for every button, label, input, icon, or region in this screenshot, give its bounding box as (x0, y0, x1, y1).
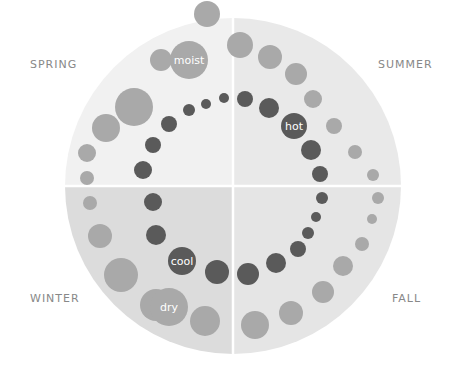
outer-dot (88, 224, 112, 248)
inner-dot (237, 91, 253, 107)
inner-dot (311, 212, 321, 222)
outer-dot (333, 256, 353, 276)
inner-dot (312, 166, 328, 182)
outer-dot (285, 63, 307, 85)
outer-dot (78, 144, 96, 162)
outer-dot (279, 301, 303, 325)
outer-dot (367, 214, 377, 224)
quality-label-cool: cool (171, 255, 194, 268)
outer-dot (104, 258, 138, 292)
outer-dot (304, 90, 322, 108)
inner-dot (266, 253, 286, 273)
label-summer: SUMMER (378, 58, 433, 71)
quality-label-hot: hot (285, 120, 304, 133)
outer-dot (80, 171, 94, 185)
inner-dot (146, 225, 166, 245)
inner-dot (237, 263, 259, 285)
inner-dot (201, 99, 211, 109)
seasons-diagram: moisthotcooldry (0, 0, 458, 374)
inner-dot (145, 137, 161, 153)
label-spring: SPRING (30, 58, 77, 71)
label-winter: WINTER (30, 292, 80, 305)
outer-dot (150, 49, 172, 71)
outer-dot (348, 145, 362, 159)
inner-dot (219, 93, 229, 103)
outer-dot (227, 32, 253, 58)
outer-dot (372, 192, 384, 204)
outer-dot (115, 88, 153, 126)
outer-dot (367, 169, 379, 181)
inner-dot (183, 104, 195, 116)
outer-dot (190, 306, 220, 336)
inner-dot (161, 116, 177, 132)
outer-dot (355, 237, 369, 251)
inner-dot (259, 98, 279, 118)
outer-dot (241, 311, 269, 339)
outer-dot (258, 45, 282, 69)
inner-dot (316, 192, 328, 204)
quality-label-dry: dry (160, 301, 179, 314)
inner-dot (144, 193, 162, 211)
outer-dot (194, 1, 220, 27)
inner-dot (205, 260, 229, 284)
inner-dot (302, 227, 314, 239)
outer-dot (92, 114, 120, 142)
inner-dot (290, 241, 306, 257)
quality-label-moist: moist (174, 54, 205, 67)
outer-dot (83, 196, 97, 210)
outer-dot (326, 118, 342, 134)
label-fall: FALL (392, 292, 421, 305)
outer-dot (312, 281, 334, 303)
inner-dot (134, 161, 152, 179)
inner-dot (301, 140, 321, 160)
